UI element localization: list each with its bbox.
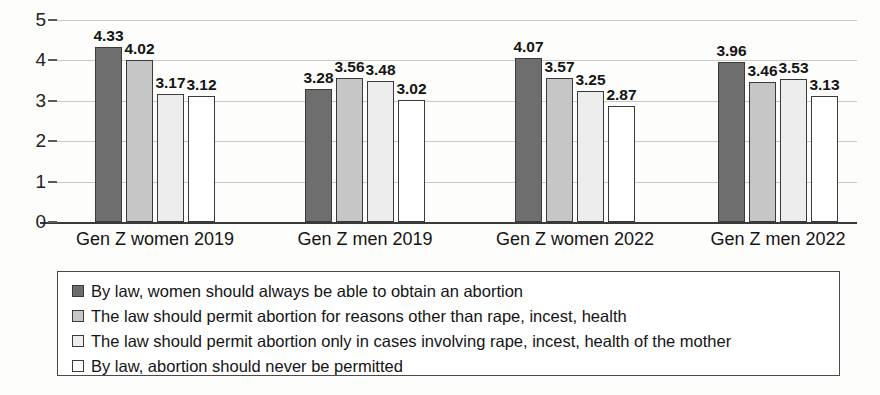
legend-label: The law should permit abortion only in c… [91,331,731,351]
y-axis-tick-mark [48,19,57,21]
y-axis-tick-mark [48,59,57,61]
legend: By law, women should always be able to o… [57,271,840,376]
x-axis-group-label: Gen Z women 2022 [475,228,675,250]
x-axis-group-label: Gen Z women 2019 [55,228,255,250]
bar [749,82,776,222]
bar [546,78,573,222]
x-axis-group-label: Gen Z men 2019 [265,228,465,250]
bar-chart: 012345 4.334.023.173.123.283.563.483.024… [0,0,880,395]
y-axis-tick-mark [48,140,57,142]
bar-value-label: 3.48 [359,62,402,78]
legend-swatch-icon [72,285,84,297]
y-axis-tick-label: 1 [18,172,46,191]
bar [367,81,394,222]
y-axis-tick-mark [48,221,57,223]
bar-value-label: 4.07 [507,39,550,55]
bar [608,106,635,222]
bar [718,62,745,222]
bar-value-label: 3.53 [772,60,815,76]
bar-value-label: 3.12 [180,77,223,93]
legend-label: By law, women should always be able to o… [91,281,523,301]
bar-value-label: 3.96 [710,43,753,59]
legend-item: By law, women should always be able to o… [72,279,839,303]
x-axis-line [40,222,857,224]
bar [811,96,838,222]
legend-item: The law should permit abortion only in c… [72,329,839,353]
bar [336,78,363,222]
legend-item: By law, abortion should never be permitt… [72,354,839,378]
y-axis-tick-label: 4 [18,50,46,69]
legend-swatch-icon [72,310,84,322]
gridline [57,20,857,21]
y-axis-tick-mark [48,100,57,102]
y-axis-tick-mark [48,181,57,183]
bar [577,91,604,222]
x-axis-group-label: Gen Z men 2022 [678,228,878,250]
bar [95,47,122,222]
bar [305,89,332,222]
bar [188,96,215,222]
bar-value-label: 4.02 [118,41,161,57]
legend-label: The law should permit abortion for reaso… [91,306,627,326]
legend-swatch-icon [72,335,84,347]
y-axis-tick-label: 3 [18,91,46,110]
bar-value-label: 3.13 [803,77,846,93]
bar-value-label: 3.02 [390,81,433,97]
bar [780,79,807,222]
bar [398,100,425,222]
bar-value-label: 2.87 [600,87,643,103]
y-axis-tick-label: 5 [18,10,46,29]
y-axis-tick-label: 2 [18,131,46,150]
bar [157,94,184,222]
legend-item: The law should permit abortion for reaso… [72,304,839,328]
legend-label: By law, abortion should never be permitt… [91,356,403,376]
bar [515,58,542,222]
legend-swatch-icon [72,360,84,372]
y-axis-tick-label: 0 [18,212,46,231]
